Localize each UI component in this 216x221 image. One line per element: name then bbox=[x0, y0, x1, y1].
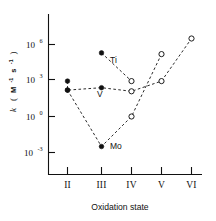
y-tick-label-1e0-mantissa: 10 bbox=[26, 112, 36, 122]
x-axis-title: Oxidation state bbox=[91, 202, 149, 212]
y-axis-title: k ( M -1 s -1 ) bbox=[0, 52, 19, 112]
series-labels-group: Ti V Mo bbox=[97, 55, 122, 151]
y-axis-title-unit-m-exp: -1 bbox=[8, 78, 14, 83]
data-point-ti-iv bbox=[129, 79, 134, 84]
axes-group bbox=[49, 14, 203, 175]
chart-svg: 10 6 10 3 10 0 10 -3 k ( M -1 s -1 ) bbox=[0, 0, 216, 221]
x-tick-labels-group: II III IV V VI bbox=[64, 180, 197, 190]
data-point-mo-ii bbox=[65, 88, 70, 93]
y-axis-title-symbol: k bbox=[8, 107, 18, 112]
x-tick-label-V: V bbox=[158, 180, 165, 190]
data-point-v-vi bbox=[189, 36, 194, 41]
data-point-ti-iii bbox=[99, 51, 104, 56]
y-axis-title-close-paren: ) bbox=[8, 52, 18, 55]
data-point-v-ii bbox=[65, 79, 70, 84]
y-tick-label-1e0-exponent: 0 bbox=[40, 109, 43, 116]
series-line-mo bbox=[68, 54, 162, 146]
y-ticks-group bbox=[49, 45, 56, 153]
y-axis-title-text: k ( M -1 s -1 ) bbox=[0, 52, 19, 112]
y-axis-title-open-paren: ( bbox=[8, 98, 18, 101]
data-point-mo-iii bbox=[99, 144, 104, 149]
x-tick-label-IV: IV bbox=[126, 180, 136, 190]
y-tick-label-1e6-exponent: 6 bbox=[40, 37, 43, 44]
y-axis-title-unit-s: s bbox=[9, 69, 18, 73]
data-point-mo-iv bbox=[129, 114, 134, 119]
data-point-v-iv bbox=[129, 89, 134, 94]
y-axis-title-unit-m: M bbox=[9, 87, 18, 93]
y-axis-title-unit-s-exp: -1 bbox=[8, 59, 14, 64]
y-tick-label-1e3-exponent: 3 bbox=[40, 72, 43, 79]
series-points-group bbox=[65, 36, 194, 149]
y-tick-label-1e6-mantissa: 10 bbox=[26, 40, 36, 50]
x-tick-label-VI: VI bbox=[186, 180, 196, 190]
chart-figure: 10 6 10 3 10 0 10 -3 k ( M -1 s -1 ) bbox=[0, 0, 216, 221]
y-tick-label-1e3-mantissa: 10 bbox=[26, 75, 36, 85]
x-tick-label-III: III bbox=[96, 180, 106, 190]
x-tick-label-II: II bbox=[64, 180, 71, 190]
y-tick-labels-group: 10 6 10 3 10 0 10 -3 bbox=[24, 37, 43, 158]
y-tick-label-1em3-mantissa: 10 bbox=[24, 148, 34, 158]
x-ticks-group bbox=[68, 167, 192, 175]
series-label-ti: Ti bbox=[110, 55, 117, 65]
series-label-v: V bbox=[97, 89, 103, 99]
y-tick-label-1em3-exponent: -3 bbox=[38, 145, 43, 152]
series-label-mo: Mo bbox=[110, 141, 122, 151]
data-point-v-v bbox=[159, 79, 164, 84]
data-point-mo-v bbox=[159, 52, 164, 57]
